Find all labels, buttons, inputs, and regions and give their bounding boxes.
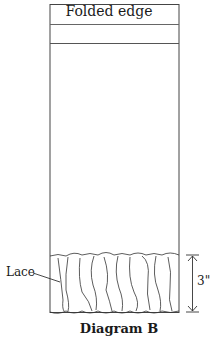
lace-pointer-line: [33, 273, 60, 282]
lace-label: Lace: [6, 265, 35, 279]
folded-edge-label: Folded edge: [0, 3, 214, 19]
lace-band: [50, 253, 179, 314]
fabric-panel: [50, 5, 179, 313]
diagram-drawing: [0, 0, 214, 343]
diagram-caption: Diagram B: [0, 321, 214, 336]
dimension-label: 3": [197, 274, 210, 288]
